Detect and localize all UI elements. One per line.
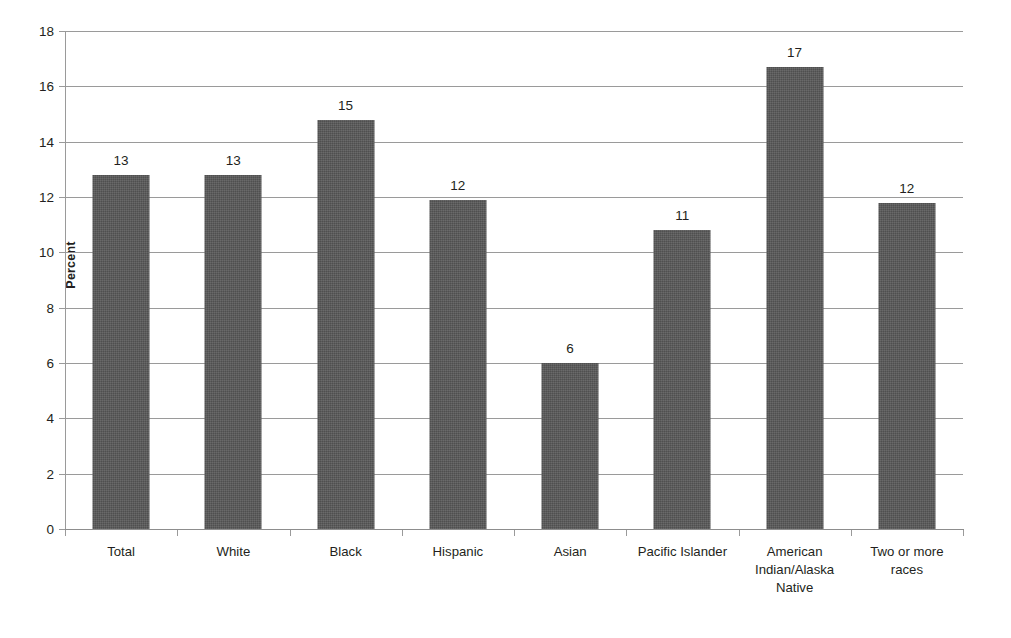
x-axis-label-line: Indian/Alaska	[739, 561, 851, 579]
bar[interactable]	[542, 363, 599, 529]
bar[interactable]	[654, 230, 711, 529]
y-tick-label: 12	[39, 190, 54, 205]
bar-value-label: 11	[675, 208, 689, 223]
x-axis-label-line: Total	[65, 543, 177, 561]
x-axis-label: White	[177, 543, 289, 561]
x-tick-mark	[739, 530, 740, 536]
x-axis-label: Asian	[514, 543, 626, 561]
bar[interactable]	[93, 175, 150, 529]
x-axis-label: Pacific Islander	[626, 543, 738, 561]
x-tick-mark	[626, 530, 627, 536]
x-axis-label-line: White	[177, 543, 289, 561]
y-tick-label: 8	[46, 300, 54, 315]
x-tick-mark	[177, 530, 178, 536]
bar-value-label: 13	[114, 153, 129, 168]
x-axis-label-line: races	[851, 561, 963, 579]
x-axis-label-line: Native	[739, 579, 851, 597]
x-tick-mark	[514, 530, 515, 536]
y-tick-label: 4	[46, 411, 54, 426]
bar-slot: 17	[739, 31, 851, 529]
bar[interactable]	[429, 200, 486, 529]
x-axis-label: Total	[65, 543, 177, 561]
x-tick-mark	[402, 530, 403, 536]
x-axis-label-line: Hispanic	[402, 543, 514, 561]
bar-value-label: 15	[338, 98, 353, 113]
x-axis-label-line: American	[739, 543, 851, 561]
y-tick-label: 2	[46, 466, 54, 481]
bar-slot: 12	[402, 31, 514, 529]
x-axis-label-line: Two or more	[851, 543, 963, 561]
y-tick-label: 10	[39, 245, 54, 260]
bar-slot: 13	[65, 31, 177, 529]
bar-slot: 13	[177, 31, 289, 529]
x-axis-label-line: Black	[290, 543, 402, 561]
x-axis-label-line: Asian	[514, 543, 626, 561]
x-axis-label: Two or moreraces	[851, 543, 963, 579]
bar[interactable]	[766, 67, 823, 529]
bar-value-label: 13	[226, 153, 241, 168]
bar-value-label: 12	[450, 178, 465, 193]
bar-chart: Percent 024681012141618 131315126111712 …	[0, 0, 1011, 638]
x-axis-label: Black	[290, 543, 402, 561]
x-tick-mark	[963, 530, 964, 536]
x-axis-label: Hispanic	[402, 543, 514, 561]
y-tick-label: 18	[39, 24, 54, 39]
y-tick-label: 0	[46, 522, 54, 537]
bar[interactable]	[317, 120, 374, 529]
bar-slot: 6	[514, 31, 626, 529]
x-axis-label-line: Pacific Islander	[626, 543, 738, 561]
x-tick-mark	[851, 530, 852, 536]
bar-slot: 15	[290, 31, 402, 529]
bar-value-label: 12	[899, 181, 914, 196]
y-tick-label: 16	[39, 79, 54, 94]
x-tick-mark	[65, 530, 66, 536]
x-tick-mark	[290, 530, 291, 536]
bar-value-label: 17	[787, 45, 802, 60]
bar[interactable]	[878, 203, 935, 529]
bar[interactable]	[205, 175, 262, 529]
bar-slot: 12	[851, 31, 963, 529]
x-axis-label: AmericanIndian/AlaskaNative	[739, 543, 851, 597]
y-tick-label: 14	[39, 134, 54, 149]
bar-slot: 11	[626, 31, 738, 529]
bar-value-label: 6	[566, 341, 574, 356]
y-tick-label: 6	[46, 356, 54, 371]
plot-area: 024681012141618 131315126111712	[65, 31, 963, 529]
